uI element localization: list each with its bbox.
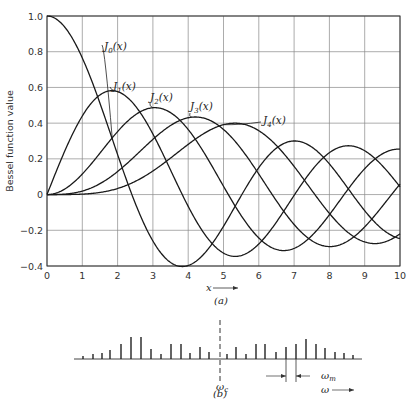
bessel-figure: 0123456789101.00.80.60.40.20−0.2−0.4 J0(… (0, 0, 420, 412)
x-tick-label: 5 (220, 270, 226, 281)
omega-axis-label: ω (321, 384, 329, 395)
label-j4x: J4(x) (261, 114, 286, 129)
x-tick-label: 0 (44, 270, 50, 281)
panel-label-a: (a) (214, 295, 228, 306)
panel-label-b: (b) (213, 388, 227, 399)
x-tick-label: 3 (150, 270, 156, 281)
y-tick-label: 0.6 (28, 82, 43, 93)
y-tick-label: 1.0 (28, 11, 43, 22)
grid-lines (47, 16, 400, 266)
y-tick-label: −0.4 (20, 261, 43, 272)
label-j3x: J3(x) (188, 100, 213, 115)
y-tick-label: −0.2 (20, 225, 43, 236)
x-axis-label: x (206, 282, 212, 293)
line-spectrum: ωcωmω (74, 320, 362, 395)
y-tick-label: 0 (37, 189, 43, 200)
omega-m-label: ωm (321, 370, 336, 383)
label-j2x: J2(x) (148, 91, 173, 106)
x-tick-label: 6 (256, 270, 262, 281)
x-tick-label: 8 (326, 270, 332, 281)
x-axis-arrow: x (206, 282, 238, 293)
x-tick-label: 4 (185, 270, 191, 281)
x-tick-label: 7 (291, 270, 297, 281)
y-tick-label: 0.4 (28, 118, 43, 129)
x-tick-label: 9 (362, 270, 368, 281)
x-tick-label: 2 (115, 270, 121, 281)
label-j0x: J0(x) (102, 40, 127, 55)
label-j1x: J1(x) (111, 80, 136, 95)
x-tick-label: 1 (79, 270, 85, 281)
y-axis-label: Bessel function value (4, 90, 15, 192)
x-tick-label: 10 (394, 270, 406, 281)
curve-labels: J0(x)J1(x)J2(x)J3(x)J4(x) (102, 40, 286, 139)
y-tick-label: 0.8 (28, 46, 43, 57)
y-tick-label: 0.2 (28, 153, 43, 164)
